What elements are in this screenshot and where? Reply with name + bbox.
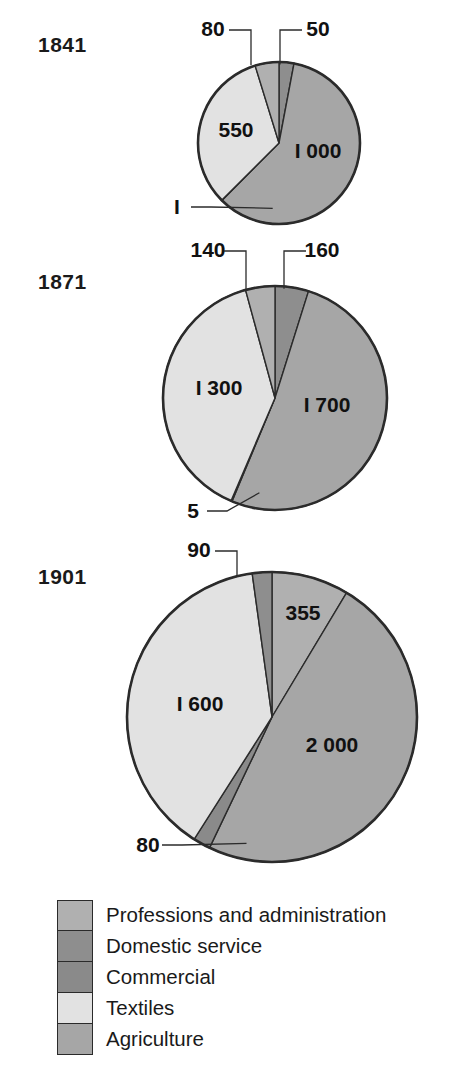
slice-value-label: 140 xyxy=(190,238,225,261)
slice-value-label: 355 xyxy=(285,601,320,624)
legend-item[interactable]: Textiles xyxy=(57,993,386,1024)
slice-value-label: I 700 xyxy=(304,393,351,416)
legend-item[interactable]: Agriculture xyxy=(57,1024,386,1055)
legend-swatch-professions xyxy=(57,900,93,931)
slice-value-label: 160 xyxy=(304,238,339,261)
leader-line xyxy=(280,30,302,65)
leader-line xyxy=(284,251,306,289)
slice-value-label: 80 xyxy=(201,17,224,40)
legend-swatch-textiles xyxy=(57,993,93,1024)
legend-item[interactable]: Commercial xyxy=(57,962,386,993)
slice-value-label: I 300 xyxy=(196,376,243,399)
leader-line xyxy=(215,551,237,576)
legend-swatch-commercial xyxy=(57,962,93,993)
slice-value-label: I xyxy=(174,195,180,218)
leader-line xyxy=(229,30,251,65)
legend-item[interactable]: Professions and administration xyxy=(57,900,386,931)
slice-value-label: 550 xyxy=(218,118,253,141)
legend: Professions and administration Domestic … xyxy=(57,900,386,1055)
legend-item[interactable]: Domestic service xyxy=(57,931,386,962)
figure-canvas: 1841I 0005508050I1871I 700I 300140160519… xyxy=(0,0,455,1065)
slice-value-label: 80 xyxy=(136,833,159,856)
legend-label-textiles: Textiles xyxy=(106,998,174,1019)
leader-line xyxy=(224,251,246,290)
legend-label-agriculture: Agriculture xyxy=(106,1029,204,1050)
slice-value-label: 2 000 xyxy=(306,733,359,756)
legend-label-professions: Professions and administration xyxy=(106,905,386,926)
slice-value-label: 50 xyxy=(306,17,329,40)
legend-swatch-agriculture xyxy=(57,1024,93,1055)
slice-value-label: 90 xyxy=(187,538,210,561)
slice-value-label: I 600 xyxy=(177,692,224,715)
legend-label-commercial: Commercial xyxy=(106,967,215,988)
slice-value-label: I 000 xyxy=(295,139,342,162)
legend-label-domestic-service: Domestic service xyxy=(106,936,262,957)
pie-chart-1901: 2 000I 6003559080 xyxy=(0,510,455,922)
legend-swatch-domestic-service xyxy=(57,931,93,962)
